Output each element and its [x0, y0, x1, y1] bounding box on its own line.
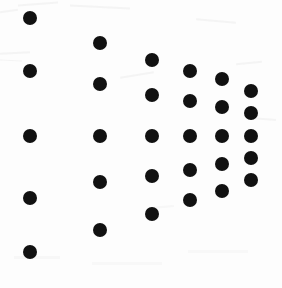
data-point-dot: [244, 106, 258, 120]
data-point-dot: [145, 129, 159, 143]
data-point-dot: [183, 64, 197, 78]
data-point-dot: [93, 129, 107, 143]
data-point-dot: [183, 94, 197, 108]
scan-artifact: [0, 51, 30, 55]
data-point-dot: [244, 129, 258, 143]
data-point-dot: [183, 129, 197, 143]
data-point-dot: [244, 84, 258, 98]
scan-artifact: [236, 61, 262, 66]
data-point-dot: [183, 193, 197, 207]
scan-artifact: [188, 250, 248, 253]
data-point-dot: [23, 64, 37, 78]
data-point-dot: [23, 245, 37, 259]
data-point-dot: [215, 184, 229, 198]
data-point-dot: [183, 163, 197, 177]
scan-artifact: [0, 60, 22, 62]
data-point-dot: [23, 11, 37, 25]
data-point-dot: [215, 157, 229, 171]
data-point-dot: [215, 129, 229, 143]
data-point-dot: [23, 129, 37, 143]
data-point-dot: [93, 77, 107, 91]
dot-pattern-canvas: [0, 0, 282, 288]
data-point-dot: [93, 175, 107, 189]
scan-artifact: [14, 256, 60, 259]
data-point-dot: [23, 191, 37, 205]
data-point-dot: [215, 100, 229, 114]
scan-artifact: [0, 9, 18, 13]
data-point-dot: [215, 72, 229, 86]
scan-artifact: [18, 2, 58, 7]
data-point-dot: [244, 173, 258, 187]
data-point-dot: [145, 53, 159, 67]
scan-artifact: [196, 18, 236, 23]
data-point-dot: [244, 151, 258, 165]
data-point-dot: [145, 207, 159, 221]
data-point-dot: [93, 223, 107, 237]
scan-artifact: [70, 4, 130, 9]
data-point-dot: [145, 169, 159, 183]
data-point-dot: [93, 36, 107, 50]
scan-artifact: [92, 262, 162, 265]
scan-artifact: [120, 71, 154, 78]
data-point-dot: [145, 88, 159, 102]
